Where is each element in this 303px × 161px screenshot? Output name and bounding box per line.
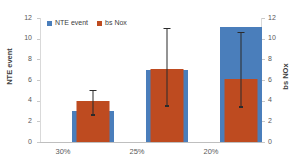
legend-item-nte-event[interactable]: NTE event — [47, 19, 88, 27]
left-axis-tick-8: 8 — [14, 55, 32, 63]
category-axis-line — [40, 142, 262, 143]
error-bar-cap-top — [238, 32, 245, 33]
left-axis-tick-12: 12 — [14, 14, 32, 22]
error-bar-cap-bottom — [165, 105, 169, 107]
error-bar-line — [93, 91, 94, 116]
chart-legend: NTE event bs Nox — [47, 19, 127, 27]
error-bar-cap-top — [90, 90, 97, 91]
dual-axis-bar-chart: 12 10 8 6 4 2 0 12 10 8 6 4 2 0 NTE even… — [0, 0, 303, 161]
left-tick-mark — [37, 142, 40, 143]
right-tick-mark — [262, 142, 265, 143]
legend-swatch-icon — [47, 21, 52, 26]
category-label-25: 25% — [107, 147, 167, 156]
plot-area — [40, 18, 262, 142]
error-bar-cap-bottom — [91, 114, 95, 116]
category-label-30: 30% — [33, 147, 93, 156]
error-bar-line — [241, 33, 242, 108]
left-axis-tick-2: 2 — [14, 117, 32, 125]
left-axis-tick-4: 4 — [14, 96, 32, 104]
legend-label: bs Nox — [105, 19, 127, 27]
left-axis-tick-0: 0 — [14, 138, 32, 146]
error-bar-cap-top — [164, 28, 171, 29]
legend-label: NTE event — [55, 19, 88, 27]
right-axis-title: bs NOx — [281, 63, 290, 89]
category-label-20: 20% — [181, 147, 241, 156]
legend-item-bs-nox[interactable]: bs Nox — [97, 19, 127, 27]
legend-swatch-icon — [97, 21, 102, 26]
bar-group-30 — [63, 18, 123, 142]
bar-group-20 — [211, 18, 271, 142]
left-axis-tick-6: 6 — [14, 76, 32, 84]
error-bar-cap-bottom — [239, 106, 243, 108]
left-axis-tick-10: 10 — [14, 34, 32, 42]
bar-group-25 — [137, 18, 197, 142]
error-bar-line — [167, 29, 168, 107]
left-axis-title: NTE event — [5, 48, 14, 85]
